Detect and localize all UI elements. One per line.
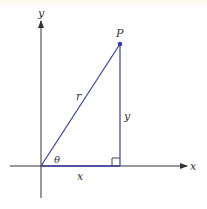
hypotenuse-label: r (76, 90, 82, 103)
x-axis-label: x (190, 160, 197, 173)
adjacent-side-label: x (77, 170, 84, 183)
point-p-dot (118, 42, 123, 47)
y-axis-label: y (37, 7, 45, 20)
hypotenuse-r (41, 44, 120, 166)
point-p-label: P (115, 27, 124, 40)
opposite-side-label: y (123, 110, 131, 123)
angle-theta-label: θ (54, 154, 60, 165)
polar-coordinate-diagram: y x P r y θ x (0, 0, 207, 209)
right-angle-marker (112, 158, 120, 166)
